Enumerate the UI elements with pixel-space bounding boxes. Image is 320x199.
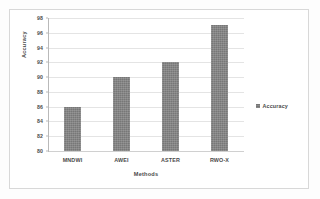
x-axis-title: Methods: [48, 171, 244, 177]
bars-layer: [48, 18, 244, 151]
y-axis-tick-label: 84: [37, 118, 43, 124]
legend-label-accuracy: Accuracy: [263, 103, 288, 109]
y-axis-tick-label: 86: [37, 104, 43, 110]
y-axis-tick-label: 92: [37, 59, 43, 65]
y-axis-tick-label: 88: [37, 89, 43, 95]
bar-rwo-x: [211, 25, 228, 151]
x-axis-tick-label: ASTER: [161, 157, 180, 163]
x-axis-tick-label: AWEI: [114, 157, 128, 163]
y-axis-tick-label: 94: [37, 45, 43, 51]
legend-swatch-icon: [256, 104, 260, 108]
bar-awei: [113, 77, 130, 151]
gridline: [48, 151, 244, 152]
y-axis-title: Accuracy: [21, 31, 27, 58]
y-axis-tick-label: 90: [37, 74, 43, 80]
bar-aster: [162, 62, 179, 151]
x-axis-tick-label: MNDWI: [63, 157, 83, 163]
x-axis-tick-label: RWO-X: [210, 157, 229, 163]
bar-mndwi: [64, 107, 81, 151]
y-axis-tick-label: 80: [37, 148, 43, 154]
chart-legend: Accuracy: [256, 103, 288, 109]
chart-figure: 98969492908886848280 MNDWIAWEIASTERRWO-X…: [0, 0, 320, 199]
y-axis-tick-label: 82: [37, 133, 43, 139]
y-axis-tick-label: 96: [37, 30, 43, 36]
chart-plot-frame: 98969492908886848280 MNDWIAWEIASTERRWO-X…: [9, 9, 309, 189]
y-axis-tick-label: 98: [37, 15, 43, 21]
